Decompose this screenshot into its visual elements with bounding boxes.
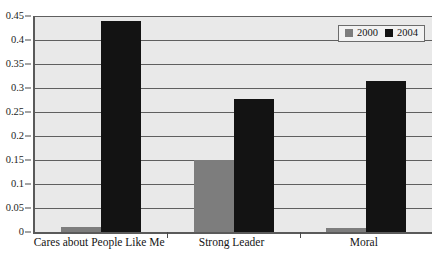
y-axis-tick-mark <box>25 208 31 209</box>
chart-legend: 20002004 <box>338 25 425 42</box>
y-axis: 00.050.10.150.20.250.30.350.40.45 <box>0 0 31 256</box>
bar-2004-cat1 <box>234 99 274 232</box>
bar-2000-cat2 <box>326 228 366 232</box>
y-axis-tick-label: 0.45 <box>6 11 24 22</box>
x-axis-category-label: Strong Leader <box>199 236 264 250</box>
y-axis-tick-label: 0.1 <box>11 179 24 190</box>
y-axis-tick-mark <box>25 40 31 41</box>
bar-2004-cat0 <box>101 21 141 232</box>
y-axis-tick-label: 0.2 <box>11 131 24 142</box>
y-axis-tick-label: 0.05 <box>6 203 24 214</box>
y-axis-tick-label: 0 <box>19 227 24 238</box>
legend-swatch-icon <box>385 29 393 37</box>
y-axis-tick-mark <box>25 64 31 65</box>
bar-2000-cat1 <box>194 160 234 232</box>
y-axis-tick-label: 0.15 <box>6 155 24 166</box>
y-axis-tick-mark <box>25 232 31 233</box>
bar-2004-cat2 <box>366 81 406 232</box>
y-axis-tick-label: 0.25 <box>6 107 24 118</box>
y-axis-tick-label: 0.35 <box>6 59 24 70</box>
x-axis-category-label: Moral <box>350 236 378 250</box>
y-axis-tick-mark <box>25 184 31 185</box>
legend-swatch-icon <box>345 29 353 37</box>
bar-2000-cat0 <box>61 227 101 232</box>
y-axis-tick-label: 0.3 <box>11 83 24 94</box>
y-axis-tick-mark <box>25 88 31 89</box>
legend-label: 2000 <box>357 28 378 39</box>
plot-area <box>33 16 432 234</box>
y-axis-tick-label: 0.4 <box>11 35 24 46</box>
x-axis-category-label: Cares about People Like Me <box>34 236 165 250</box>
y-axis-tick-mark <box>25 160 31 161</box>
bar-chart: 00.050.10.150.20.250.30.350.40.45 Cares … <box>0 0 445 256</box>
y-axis-tick-mark <box>25 16 31 17</box>
legend-label: 2004 <box>397 28 418 39</box>
legend-entry-2000: 2000 <box>345 28 378 39</box>
legend-entry-2004: 2004 <box>385 28 418 39</box>
bars-layer <box>35 16 432 232</box>
y-axis-tick-mark <box>25 112 31 113</box>
y-axis-tick-mark <box>25 136 31 137</box>
x-axis: Cares about People Like MeStrong LeaderM… <box>33 236 430 256</box>
